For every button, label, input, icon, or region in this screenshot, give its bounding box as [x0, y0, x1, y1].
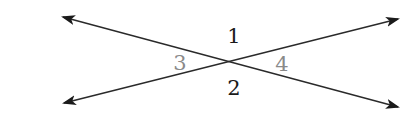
intersecting-lines-diagram: 1 2 3 4 — [0, 0, 414, 119]
angle-label-3: 3 — [173, 51, 186, 75]
angle-label-1: 1 — [227, 24, 240, 48]
angle-label-4: 4 — [275, 52, 288, 76]
angle-label-2: 2 — [227, 76, 240, 100]
